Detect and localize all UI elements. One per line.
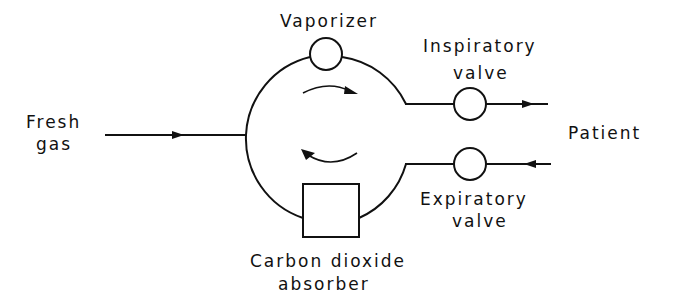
fresh-gas-label: Fresh <box>26 112 81 132</box>
co2-absorber-label-2: absorber <box>278 274 370 294</box>
loop-upper-left-arc <box>246 57 310 135</box>
vaporizer-symbol <box>310 38 342 70</box>
expiratory-valve-label-2: valve <box>452 211 508 231</box>
inspiratory-valve-label: Inspiratory <box>423 36 537 56</box>
inspiratory-valve-symbol <box>454 88 486 120</box>
expiratory-valve-symbol <box>454 148 486 180</box>
circulation-arrow-bottom <box>308 153 357 162</box>
co2-absorber-label: Carbon dioxide <box>250 251 406 271</box>
fresh-gas-label-2: gas <box>36 134 72 154</box>
expiratory-arrow-icon <box>524 160 536 168</box>
circulation-arrow-top <box>303 86 350 93</box>
co2-absorber-symbol <box>303 184 359 237</box>
circle-system-diagram: Fresh gas Vaporizer Inspiratory valve Pa… <box>0 0 674 305</box>
fresh-gas-arrow-icon <box>172 131 184 139</box>
loop-lower-right-arc <box>359 164 406 218</box>
expiratory-valve-label: Expiratory <box>420 189 528 209</box>
circulation-arrowhead-top-icon <box>344 86 358 94</box>
loop-upper-right-arc <box>342 57 406 104</box>
inspiratory-valve-label-2: valve <box>453 63 509 83</box>
vaporizer-label: Vaporizer <box>280 11 378 31</box>
loop-lower-left-arc <box>246 135 303 218</box>
patient-label: Patient <box>568 123 641 143</box>
inspiratory-arrow-icon <box>522 100 534 108</box>
